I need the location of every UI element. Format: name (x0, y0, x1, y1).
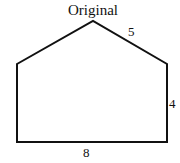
slant-side-label: 5 (128, 25, 135, 38)
house-pentagon-shape (0, 0, 180, 163)
bottom-side-label: 8 (83, 146, 90, 159)
diagram-canvas: Original 5 4 8 (0, 0, 180, 163)
right-side-label: 4 (169, 97, 176, 110)
diagram-title: Original (0, 3, 180, 18)
